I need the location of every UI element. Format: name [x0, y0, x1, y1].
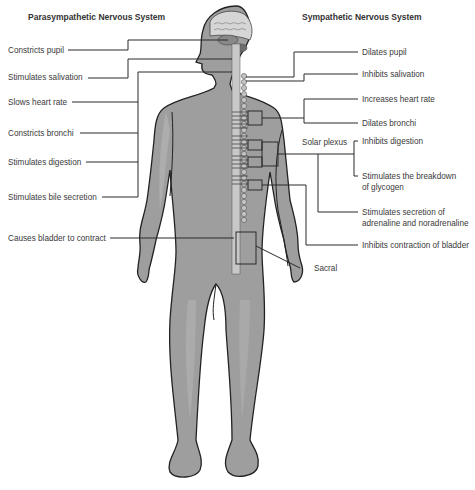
label-dilates-pupil: Dilates pupil: [362, 47, 407, 58]
label-stimulates-salivation: Stimulates salivation: [8, 72, 83, 83]
label-glycogen-breakdown-2: of glycogen: [362, 182, 404, 193]
label-slows-heart-rate: Slows heart rate: [8, 97, 67, 108]
label-constricts-bronchi: Constricts bronchi: [8, 128, 74, 139]
label-adrenaline-secretion-1: Stimulates secretion of: [362, 207, 445, 218]
label-adrenaline-secretion-2: adrenaline and noradrenaline: [362, 218, 469, 229]
label-inhibits-salivation: Inhibits salivation: [362, 69, 424, 80]
label-stimulates-bile-secretion: Stimulates bile secretion: [8, 192, 97, 203]
label-inhibits-digestion: Inhibits digestion: [362, 136, 423, 147]
label-constricts-pupil: Constricts pupil: [8, 45, 64, 56]
label-solar-plexus: Solar plexus: [302, 137, 347, 148]
label-dilates-bronchi: Dilates bronchi: [362, 118, 416, 129]
label-increases-heart-rate: Increases heart rate: [362, 94, 435, 105]
label-sacral: Sacral: [314, 263, 337, 274]
label-causes-bladder-contract: Causes bladder to contract: [8, 233, 106, 244]
label-inhibits-bladder-contraction: Inhibits contraction of bladder: [362, 240, 469, 251]
label-glycogen-breakdown-1: Stimulates the breakdown: [362, 171, 456, 182]
label-stimulates-digestion: Stimulates digestion: [8, 157, 81, 168]
